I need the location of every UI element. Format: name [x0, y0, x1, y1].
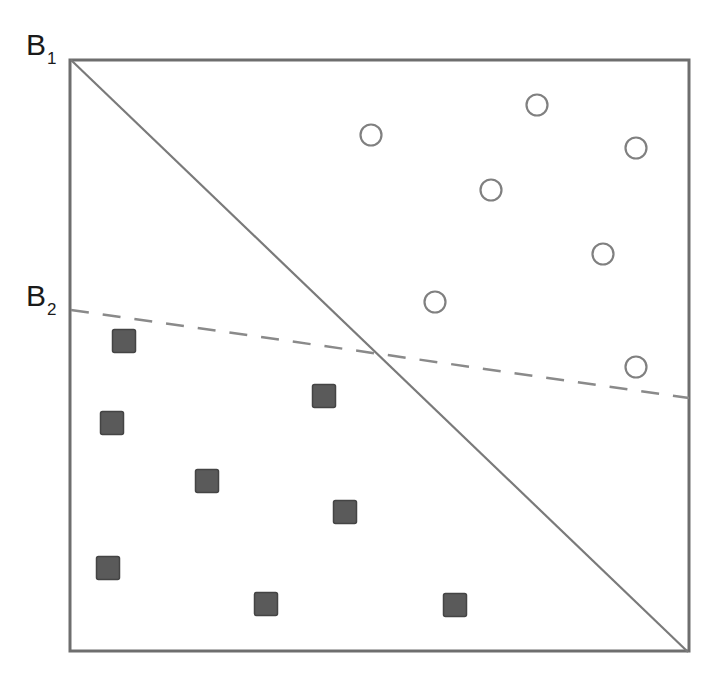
- label-b1: B1: [26, 30, 56, 60]
- decision-boundary-diagram: [0, 0, 721, 680]
- square-point: [113, 330, 136, 353]
- square-point: [196, 470, 219, 493]
- label-b2-subscript: 2: [47, 300, 56, 319]
- circle-point: [626, 357, 647, 378]
- square-point: [334, 501, 357, 524]
- square-point: [313, 385, 336, 408]
- circle-point: [626, 138, 647, 159]
- label-b2: B2: [26, 281, 56, 311]
- square-point: [444, 594, 467, 617]
- boundary-b1-solid-line: [71, 60, 688, 652]
- square-point: [97, 557, 120, 580]
- label-b2-main: B: [26, 279, 46, 312]
- square-point: [255, 593, 278, 616]
- circle-point: [361, 125, 382, 146]
- boundary-b2-dashed-line: [71, 310, 689, 398]
- circle-point: [527, 95, 548, 116]
- circle-point: [593, 244, 614, 265]
- square-point: [101, 412, 124, 435]
- label-b1-main: B: [26, 28, 46, 61]
- label-b1-subscript: 1: [47, 49, 56, 68]
- circle-point: [481, 180, 502, 201]
- square-class-points: [97, 330, 467, 617]
- circle-point: [425, 292, 446, 313]
- circle-class-points: [361, 95, 647, 378]
